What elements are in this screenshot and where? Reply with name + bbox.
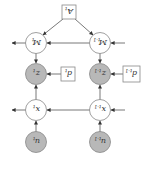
node-d_t: dt	[61, 67, 75, 81]
svg-text:t-1: t-1	[94, 136, 101, 142]
node-x_t: xt	[26, 100, 47, 121]
svg-text:t-1: t-1	[94, 68, 101, 74]
node-A_t: At	[62, 5, 76, 19]
svg-text:t-1: t-1	[125, 68, 132, 74]
node-z_t: zt	[26, 64, 47, 85]
node-d_tm1: dt-1	[123, 66, 140, 82]
node-u_tm1: ut-1	[90, 132, 111, 153]
node-M_t: Mt	[26, 33, 47, 54]
node-M_tm1: Mt-1	[90, 33, 111, 54]
node-u_t: ut	[26, 132, 47, 153]
node-x_tm1: xt-1	[90, 100, 111, 121]
edge-A-to-M_tm1	[75, 19, 93, 35]
svg-text:t-1: t-1	[94, 104, 101, 110]
svg-text:t-1: t-1	[93, 37, 100, 43]
edge-A-to-M_t	[43, 19, 63, 35]
node-z_tm1: zt-1	[90, 64, 111, 85]
graphical-model-diagram: At Mt Mt-1 zt dt zt-1 dt-1 xt xt-1 ut ut…	[0, 0, 150, 169]
svg-text:A: A	[67, 7, 74, 16]
